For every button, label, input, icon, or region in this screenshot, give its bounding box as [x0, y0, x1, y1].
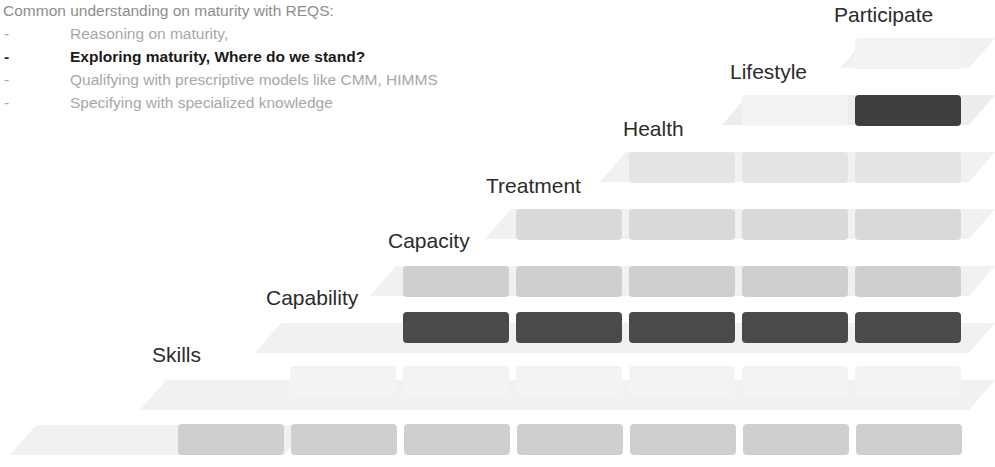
maturity-staircase-diagram: Participate Lifestyle Health Treatment C…	[0, 0, 995, 467]
grid-cell	[742, 266, 848, 297]
grid-cell	[516, 266, 622, 297]
step-label-participate: Participate	[834, 2, 933, 28]
grid-cell	[516, 209, 622, 240]
grid-cell	[742, 209, 848, 240]
grid-cell	[629, 366, 735, 397]
grid-cell	[516, 366, 622, 397]
grid-cell	[855, 38, 961, 69]
grid-cell	[290, 366, 396, 397]
grid-cell	[742, 152, 848, 183]
grid-cell-highlighted	[516, 312, 622, 343]
grid-cell	[403, 366, 509, 397]
step-label-skills: Skills	[152, 342, 201, 368]
grid-cell-highlighted	[855, 95, 961, 126]
grid-cell-highlighted	[855, 312, 961, 343]
step-label-health: Health	[623, 116, 684, 142]
grid-cell	[629, 266, 735, 297]
grid-cell	[743, 424, 849, 455]
grid-cell	[630, 424, 736, 455]
step-label-capacity: Capacity	[388, 228, 470, 254]
grid-cell	[742, 366, 848, 397]
grid-cell-highlighted	[403, 312, 509, 343]
grid-cell-highlighted	[742, 312, 848, 343]
grid-cell	[629, 209, 735, 240]
grid-cell	[855, 152, 961, 183]
slide-canvas: Common understanding on maturity with RE…	[0, 0, 995, 467]
grid-cell	[517, 424, 623, 455]
grid-cell	[629, 152, 735, 183]
step-label-lifestyle: Lifestyle	[730, 59, 807, 85]
grid-cell	[403, 266, 509, 297]
grid-cell	[178, 424, 284, 455]
grid-cell	[742, 95, 848, 126]
grid-cell	[855, 266, 961, 297]
grid-cell-highlighted	[629, 312, 735, 343]
grid-cell	[856, 424, 962, 455]
step-label-treatment: Treatment	[486, 173, 581, 199]
step-label-capability: Capability	[266, 285, 358, 311]
grid-cell	[404, 424, 510, 455]
grid-cell	[291, 424, 397, 455]
grid-cell	[855, 366, 961, 397]
grid-cell	[855, 209, 961, 240]
